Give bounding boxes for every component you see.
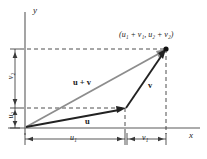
component-v1-label: v₁ — [142, 134, 148, 142]
terminal-point-label: (u₁ + v₁, u₂ + v₂) — [119, 31, 173, 39]
terminal-point-dot — [163, 46, 168, 51]
vector-addition-figure: y x (u₁ + v₁, u₂ + v₂) u + v v u v₂ u₂ u… — [0, 0, 207, 159]
vector-sum-shaft — [26, 53, 160, 127]
vector-u-arrowhead — [116, 106, 126, 113]
y-axis-label: y — [33, 6, 37, 15]
diagram-canvas — [0, 0, 207, 159]
measure-u1-arrow-right — [117, 137, 123, 142]
measure-v1-arrow-left — [129, 137, 135, 142]
measure-v1-arrow-right — [158, 137, 164, 142]
vector-v-label: v — [148, 81, 152, 90]
measure-v2-arrow-top — [13, 52, 18, 58]
x-axis-label: x — [189, 131, 193, 140]
component-u1-label: u₁ — [70, 134, 77, 142]
component-u2-label: u₂ — [7, 105, 15, 125]
component-v2-label: v₂ — [7, 66, 15, 86]
vector-u-label: u — [85, 117, 90, 126]
measure-u1-arrow-left — [27, 137, 33, 142]
vector-sum-label: u + v — [73, 78, 91, 87]
vector-v-shaft — [126, 55, 162, 108]
